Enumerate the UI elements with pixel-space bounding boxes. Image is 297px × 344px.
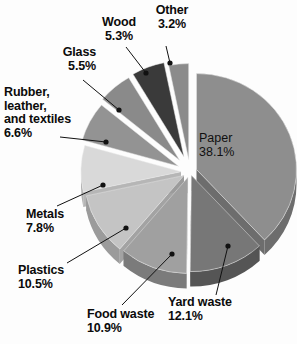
slice-label-wood: Wood 5.3% (88, 16, 150, 43)
slice-label-other: Other 3.2% (142, 4, 202, 31)
leader-dot (103, 139, 108, 144)
slice-label-glass: Glass 5.5% (20, 46, 96, 73)
leader-dot (123, 225, 128, 230)
leader-line (126, 47, 146, 73)
leader-dot (143, 70, 148, 75)
leader-dot (169, 251, 174, 256)
leader-dot (100, 182, 105, 187)
slice-label-metals: Metals 7.8% (26, 208, 106, 235)
leader-dot (116, 107, 121, 112)
slice-label-food-waste: Food waste 10.9% (87, 308, 179, 335)
slice-label-plastics: Plastics 10.5% (18, 264, 104, 291)
leader-dot (225, 243, 230, 248)
slice-label-rubber: Rubber, leather, and textiles 6.6% (4, 86, 100, 140)
slice-label-paper: Paper 38.1% (199, 131, 234, 159)
pie-chart: Paper 38.1% Other 3.2% Wood 5.3% Glass 5… (0, 0, 297, 344)
pie-slices (81, 63, 297, 289)
slice-label-yard-waste: Yard waste 12.1% (168, 296, 260, 323)
leader-line (166, 46, 170, 63)
leader-dot (167, 60, 172, 65)
